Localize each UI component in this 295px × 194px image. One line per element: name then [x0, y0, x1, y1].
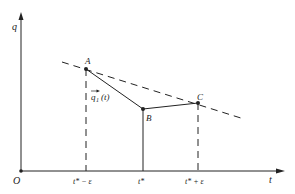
point-b-label: B	[146, 113, 152, 123]
x-axis-arrow-icon	[276, 169, 285, 174]
x-axis-label: t	[269, 174, 272, 185]
y-axis-arrow-icon	[19, 12, 24, 20]
y-axis-label: q	[12, 21, 17, 32]
tick-label-t-star: t*	[138, 177, 144, 186]
point-c-label: C	[197, 92, 204, 102]
point-b	[141, 107, 145, 111]
curve-label-sub: 1	[96, 97, 99, 103]
dashed-chord-line	[62, 62, 244, 119]
curve-label: q 1 (t)	[91, 90, 110, 104]
point-a-label: A	[84, 56, 91, 66]
curve-label-arg: (t)	[101, 92, 110, 102]
tick-label-t-minus: t* − ε	[73, 177, 93, 186]
diagram-canvas: q t O A B C q 1 (t) t* − ε t* t* + ε	[0, 0, 295, 194]
vector-arrowhead-icon	[97, 90, 101, 93]
origin-label: O	[13, 175, 20, 186]
point-a	[84, 67, 88, 71]
origin-point	[19, 169, 23, 173]
tick-label-t-plus: t* + ε	[185, 177, 205, 186]
